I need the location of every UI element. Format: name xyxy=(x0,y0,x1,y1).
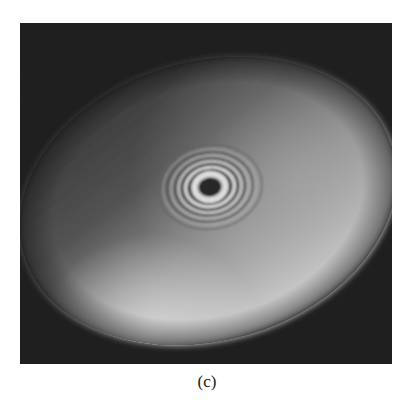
fringe-pattern-image xyxy=(20,23,392,364)
panel-caption: (c) xyxy=(0,372,414,392)
grain-overlay xyxy=(20,23,392,364)
interferogram-graphic xyxy=(20,23,392,364)
